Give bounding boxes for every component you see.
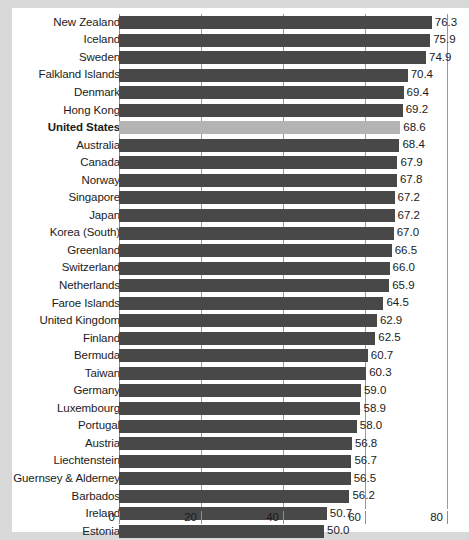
bar-value-label: 60.7 bbox=[368, 350, 393, 362]
bar-track: 56.8 bbox=[119, 437, 469, 450]
bar-value-label: 69.4 bbox=[404, 87, 429, 99]
bar[interactable] bbox=[119, 86, 404, 99]
x-tick-label: 20 bbox=[184, 512, 201, 524]
bar[interactable] bbox=[119, 349, 368, 362]
table-row[interactable]: Greenland66.5 bbox=[12, 242, 469, 260]
table-row[interactable]: Barbados56.2 bbox=[12, 488, 469, 506]
bar[interactable] bbox=[119, 279, 389, 292]
x-tick-40 bbox=[283, 511, 284, 524]
bar-track: 67.9 bbox=[119, 156, 469, 169]
bar-value-label: 67.2 bbox=[395, 192, 420, 204]
bar-track: 56.7 bbox=[119, 455, 469, 468]
bar-track: 56.2 bbox=[119, 490, 469, 503]
category-label: Falkland Islands bbox=[39, 70, 121, 82]
bar[interactable] bbox=[119, 490, 349, 503]
table-row[interactable]: New Zealand76.3 bbox=[12, 14, 469, 32]
bar[interactable] bbox=[119, 104, 403, 117]
table-row[interactable]: Switzerland66.0 bbox=[12, 260, 469, 278]
table-row[interactable]: Falkland Islands70.4 bbox=[12, 67, 469, 85]
bar[interactable] bbox=[119, 402, 360, 415]
table-row[interactable]: Hong Kong69.2 bbox=[12, 102, 469, 120]
bar[interactable] bbox=[119, 121, 400, 134]
bar[interactable] bbox=[119, 472, 351, 485]
bar[interactable] bbox=[119, 34, 430, 47]
bar-track: 75.9 bbox=[119, 34, 469, 47]
category-label: Taiwan bbox=[85, 368, 120, 380]
table-row[interactable]: Portugal58.0 bbox=[12, 418, 469, 436]
category-label: Singapore bbox=[68, 192, 120, 204]
table-row[interactable]: Japan67.2 bbox=[12, 207, 469, 225]
bar[interactable] bbox=[119, 437, 352, 450]
bar[interactable] bbox=[119, 420, 357, 433]
bar-value-label: 68.4 bbox=[399, 140, 424, 152]
bar[interactable] bbox=[119, 51, 426, 64]
category-label: Barbados bbox=[72, 491, 120, 503]
bar[interactable] bbox=[119, 297, 383, 310]
bar[interactable] bbox=[119, 244, 392, 257]
table-row[interactable]: Finland62.5 bbox=[12, 330, 469, 348]
table-row[interactable]: United Kingdom62.9 bbox=[12, 312, 469, 330]
bar[interactable] bbox=[119, 156, 397, 169]
bar-value-label: 68.6 bbox=[400, 122, 425, 134]
bar[interactable] bbox=[119, 227, 394, 240]
table-row[interactable]: Germany59.0 bbox=[12, 382, 469, 400]
bar-value-label: 62.5 bbox=[375, 333, 400, 345]
bar-value-label: 56.2 bbox=[349, 491, 374, 503]
table-row[interactable]: Denmark69.4 bbox=[12, 84, 469, 102]
bar[interactable] bbox=[119, 139, 399, 152]
category-label: Canada bbox=[80, 157, 120, 169]
bar[interactable] bbox=[119, 191, 395, 204]
bar-value-label: 59.0 bbox=[361, 385, 386, 397]
table-row[interactable]: Australia68.4 bbox=[12, 137, 469, 155]
bar-value-label: 74.9 bbox=[426, 52, 451, 64]
bar[interactable] bbox=[119, 455, 351, 468]
table-row[interactable]: Austria56.8 bbox=[12, 435, 469, 453]
table-row[interactable]: Faroe Islands64.5 bbox=[12, 295, 469, 313]
bar-track: 62.5 bbox=[119, 332, 469, 345]
table-row[interactable]: Korea (South)67.0 bbox=[12, 225, 469, 243]
x-tick-0 bbox=[119, 511, 120, 524]
table-row[interactable]: Taiwan60.3 bbox=[12, 365, 469, 383]
bar[interactable] bbox=[119, 384, 361, 397]
bar-value-label: 70.4 bbox=[408, 69, 433, 81]
bar[interactable] bbox=[119, 209, 395, 222]
bar-value-label: 65.9 bbox=[389, 280, 414, 292]
bar-value-label: 76.3 bbox=[432, 17, 457, 29]
bar[interactable] bbox=[119, 314, 377, 327]
table-row[interactable]: United States68.6 bbox=[12, 119, 469, 137]
table-row[interactable]: Sweden74.9 bbox=[12, 49, 469, 67]
table-row[interactable]: Luxembourg58.9 bbox=[12, 400, 469, 418]
category-label: Japan bbox=[89, 210, 120, 222]
bar[interactable] bbox=[119, 174, 397, 187]
category-label: Korea (South) bbox=[50, 228, 120, 240]
bar[interactable] bbox=[119, 262, 390, 275]
bar[interactable] bbox=[119, 367, 366, 380]
bar-value-label: 64.5 bbox=[383, 298, 408, 310]
category-label: Guernsey & Alderney bbox=[13, 473, 120, 485]
table-row[interactable]: Singapore67.2 bbox=[12, 189, 469, 207]
bar-track: 69.2 bbox=[119, 104, 469, 117]
table-row[interactable]: Netherlands65.9 bbox=[12, 277, 469, 295]
table-row[interactable]: Bermuda60.7 bbox=[12, 347, 469, 365]
bar[interactable] bbox=[119, 69, 408, 82]
bar-track: 58.0 bbox=[119, 420, 469, 433]
bar-track: 76.3 bbox=[119, 16, 469, 29]
x-tick-label: 60 bbox=[348, 512, 365, 524]
bar-rows: New Zealand76.3Iceland75.9Sweden74.9Falk… bbox=[12, 14, 469, 540]
table-row[interactable]: Norway67.8 bbox=[12, 172, 469, 190]
bar-value-label: 60.3 bbox=[366, 368, 391, 380]
bar-value-label: 67.9 bbox=[397, 157, 422, 169]
category-label: Luxembourg bbox=[57, 403, 120, 415]
table-row[interactable]: Liechtenstein56.7 bbox=[12, 453, 469, 471]
x-tick-80 bbox=[447, 511, 448, 524]
bar-track: 65.9 bbox=[119, 279, 469, 292]
category-label: United States bbox=[48, 122, 120, 134]
table-row[interactable]: Guernsey & Alderney56.5 bbox=[12, 470, 469, 488]
category-label: Switzerland bbox=[62, 263, 120, 275]
bar[interactable] bbox=[119, 332, 375, 345]
x-tick-20 bbox=[201, 511, 202, 524]
horizontal-bar-chart: New Zealand76.3Iceland75.9Sweden74.9Falk… bbox=[12, 8, 469, 532]
table-row[interactable]: Iceland75.9 bbox=[12, 32, 469, 50]
bar[interactable] bbox=[119, 16, 432, 29]
table-row[interactable]: Canada67.9 bbox=[12, 154, 469, 172]
